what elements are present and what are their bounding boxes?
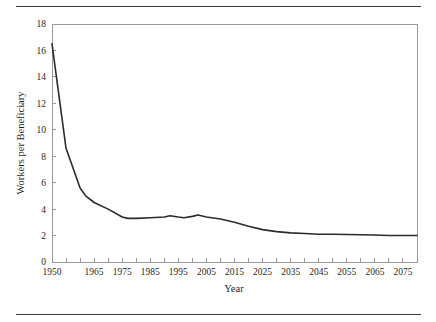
- x-tick-label: 2065: [365, 267, 384, 277]
- line-chart: 1950196519751985199520052015202520352045…: [0, 0, 436, 322]
- x-tick-label: 2055: [337, 267, 356, 277]
- x-axis-title: Year: [224, 283, 244, 294]
- y-tick-label: 10: [37, 125, 47, 135]
- x-axis-tick-labels: 1950196519751985199520052015202520352045…: [43, 267, 413, 277]
- x-tick-label: 2015: [225, 267, 244, 277]
- x-tick-label: 1985: [141, 267, 160, 277]
- x-tick-label: 2035: [281, 267, 300, 277]
- figure-container: 1950196519751985199520052015202520352045…: [0, 0, 436, 322]
- x-tick-label: 1995: [169, 267, 188, 277]
- x-tick-label: 1965: [85, 267, 104, 277]
- axes-group: [52, 24, 417, 262]
- x-tick-label: 2075: [393, 267, 412, 277]
- y-axis-title: Workers per Beneficiary: [15, 91, 26, 195]
- y-tick-label: 0: [41, 257, 46, 267]
- x-tick-label: 1950: [43, 267, 62, 277]
- data-series-group: [52, 44, 417, 236]
- y-tick-label: 8: [41, 152, 46, 162]
- y-tick-label: 14: [37, 72, 47, 82]
- plot-frame: [52, 24, 417, 262]
- series-line: [52, 44, 417, 236]
- y-axis-tick-labels: 024681012141618: [37, 19, 47, 267]
- x-tick-label: 2045: [309, 267, 328, 277]
- y-tick-label: 6: [41, 178, 46, 188]
- chart-plot-area: 1950196519751985199520052015202520352045…: [0, 0, 436, 322]
- y-tick-label: 4: [41, 205, 46, 215]
- y-tick-label: 16: [37, 46, 47, 56]
- x-tick-label: 2025: [253, 267, 272, 277]
- x-axis-ticks: [52, 258, 417, 262]
- x-tick-label: 2005: [197, 267, 216, 277]
- x-tick-label: 1975: [113, 267, 132, 277]
- y-tick-label: 2: [41, 231, 46, 241]
- y-tick-label: 18: [37, 19, 47, 29]
- y-tick-label: 12: [37, 99, 47, 109]
